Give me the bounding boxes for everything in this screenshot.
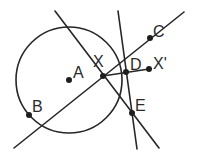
point-x-prime <box>146 66 152 72</box>
label-c: C <box>153 23 165 40</box>
geometry-diagram: A B C D E X X' <box>0 0 199 165</box>
label-b: B <box>32 98 43 115</box>
point-x <box>100 73 106 79</box>
label-x: X <box>93 53 104 70</box>
point-a <box>66 77 72 83</box>
label-d: D <box>130 56 142 73</box>
point-d <box>123 69 129 75</box>
label-e: E <box>135 97 146 114</box>
label-x-prime: X' <box>153 55 167 72</box>
label-a: A <box>73 64 84 81</box>
line-through-d-and-e <box>118 11 137 149</box>
